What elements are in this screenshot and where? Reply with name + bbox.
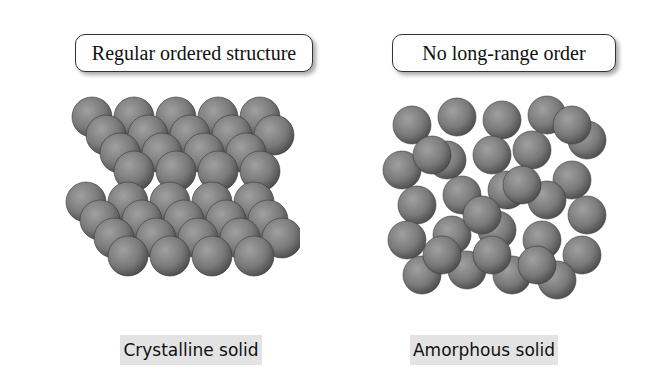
crystalline-lattice-illustration bbox=[60, 95, 300, 305]
crystalline-solid-label-text: Crystalline solid bbox=[123, 340, 258, 360]
amorphous-solid-label-text: Amorphous solid bbox=[413, 340, 555, 360]
amorphous-callout-text: No long-range order bbox=[422, 42, 585, 65]
amorphous-structure-illustration bbox=[372, 95, 622, 310]
amorphous-solid-label: Amorphous solid bbox=[410, 335, 558, 365]
crystalline-callout-text: Regular ordered structure bbox=[92, 42, 296, 65]
crystalline-callout: Regular ordered structure bbox=[75, 34, 313, 72]
amorphous-callout: No long-range order bbox=[392, 34, 616, 72]
crystalline-solid-label: Crystalline solid bbox=[120, 335, 262, 365]
